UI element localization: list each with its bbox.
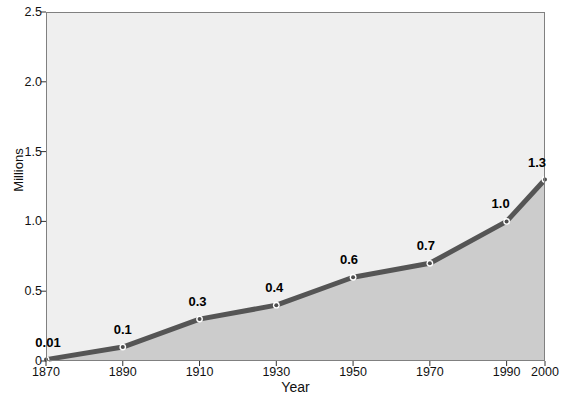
data-point-value-label: 0.6 [340,252,358,267]
data-point-value-label: 0.4 [265,280,283,295]
y-axis-title: Millions [9,120,29,220]
data-point-value-label: 0.7 [417,238,435,253]
data-point-value-label: 0.01 [35,335,60,350]
data-point-value-label: 0.1 [114,322,132,337]
data-point-value-label: 1.0 [492,196,510,211]
chart-container: 00.51.01.52.02.5 18701890191019301950197… [0,0,562,399]
data-point-value-label: 1.3 [528,155,546,170]
x-axis-title: Year [46,379,545,395]
data-point-labels: 0.010.10.30.40.60.71.01.3 [0,0,562,399]
data-point-value-label: 0.3 [188,294,206,309]
